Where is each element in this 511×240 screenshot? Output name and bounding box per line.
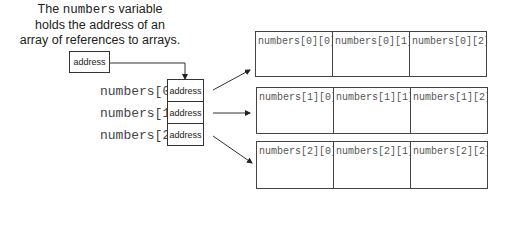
row-cell: numbers[2][0] <box>257 142 334 188</box>
ref-cell-1: address <box>167 101 204 124</box>
row-cell: numbers[0][2] <box>410 32 486 76</box>
address-text: address <box>169 86 201 96</box>
row-cell: numbers[0][0] <box>256 32 333 76</box>
row-cell: numbers[1][0] <box>257 88 334 133</box>
variable-box: address <box>69 51 110 73</box>
row-cell: numbers[2][2] <box>411 142 487 188</box>
arrow-row-2 <box>213 136 252 163</box>
row-1: numbers[1][0] numbers[1][1] numbers[1][2… <box>256 87 488 134</box>
arrow-variable <box>109 63 185 79</box>
address-text: address <box>169 108 201 118</box>
ref-cell-2: address <box>167 123 204 146</box>
row-cell: numbers[0][1] <box>333 32 410 76</box>
address-text: address <box>169 130 201 140</box>
row-cell: numbers[2][1] <box>334 142 411 188</box>
row-cell: numbers[1][1] <box>334 88 411 133</box>
address-text: address <box>73 57 105 67</box>
arrow-row-0 <box>213 70 250 90</box>
row-0: numbers[0][0] numbers[0][1] numbers[0][2… <box>255 31 487 77</box>
ref-cell-0: address <box>167 79 204 102</box>
row-cell: numbers[1][2] <box>411 88 487 133</box>
row-2: numbers[2][0] numbers[2][1] numbers[2][2… <box>256 141 488 189</box>
